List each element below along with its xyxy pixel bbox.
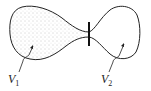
label-v2: V2 (101, 73, 112, 88)
v2-leader-line (109, 44, 124, 72)
diagram-canvas (0, 0, 151, 91)
volume-v1-shape (10, 6, 89, 60)
label-v1: V1 (8, 73, 19, 88)
v2-leader-arrow (121, 43, 124, 47)
volume-v2-shape (89, 6, 140, 58)
